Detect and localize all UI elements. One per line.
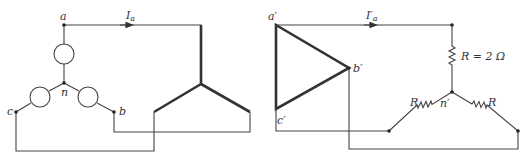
current-ia-prime-label: I′a <box>365 9 378 23</box>
node-load-a-dot <box>450 23 454 27</box>
node-n-dot <box>62 81 66 85</box>
three-phase-circuit-diagram: a n c b Ia a′ b′ c′ n′ I′a R = 2 Ω <box>0 0 528 165</box>
source-c-icon <box>30 87 50 107</box>
node-load-b-dot <box>516 129 520 133</box>
node-n-prime-label: n′ <box>440 97 450 110</box>
resistor-right-icon <box>452 92 518 131</box>
node-c-label: c <box>7 105 13 118</box>
resistor-top-icon <box>449 25 455 92</box>
right-circuit: a′ b′ c′ n′ I′a R = 2 Ω R R <box>268 9 520 149</box>
node-b-prime-label: b′ <box>353 62 363 75</box>
left-circuit: a n c b Ia <box>7 9 250 151</box>
node-load-c-dot <box>387 129 391 133</box>
delta-source-triangle <box>276 25 349 109</box>
line-a-wire <box>64 25 201 84</box>
node-a-label: a <box>60 10 67 23</box>
node-c-dot <box>14 110 18 114</box>
resistor-left-label: R <box>409 96 418 109</box>
load-y-shape <box>154 25 250 112</box>
line-b-wire <box>114 112 250 132</box>
line-c-prime-wire <box>276 109 389 131</box>
node-b-label: b <box>119 105 126 118</box>
node-b-dot <box>112 110 116 114</box>
node-a-dot <box>62 23 66 27</box>
current-ia-label: Ia <box>125 9 135 23</box>
node-n-prime-dot <box>450 90 454 94</box>
node-b-prime-dot <box>348 67 351 70</box>
node-n-label: n <box>61 86 68 99</box>
node-c-prime-label: c′ <box>277 114 286 127</box>
source-b-icon <box>78 87 98 107</box>
source-a-icon <box>54 44 74 64</box>
resistor-top-label: R = 2 Ω <box>460 50 505 63</box>
resistor-right-label: R <box>487 96 496 109</box>
node-a-prime-label: a′ <box>268 10 278 23</box>
